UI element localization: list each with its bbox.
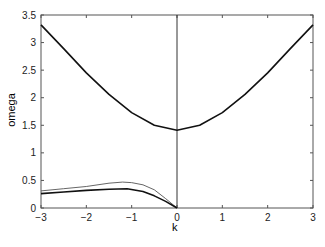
y-tick-label: 1.5 bbox=[22, 120, 36, 131]
y-tick-label: 1 bbox=[30, 147, 36, 158]
y-tick-label: 3.5 bbox=[22, 10, 36, 21]
y-tick-label: 2 bbox=[30, 92, 36, 103]
series-line bbox=[41, 182, 177, 208]
y-axis-label: omega bbox=[5, 93, 17, 127]
y-tick-label: 2.5 bbox=[22, 65, 36, 76]
y-tick-label: 3 bbox=[30, 37, 36, 48]
x-tick-label: −3 bbox=[35, 212, 47, 223]
y-tick-label: 0.5 bbox=[22, 175, 36, 186]
x-axis-label: k bbox=[172, 221, 178, 233]
x-tick-label: 1 bbox=[220, 212, 226, 223]
x-tick-label: 3 bbox=[310, 212, 316, 223]
x-tick-label: −2 bbox=[81, 212, 93, 223]
y-tick-label: 0 bbox=[30, 203, 36, 214]
line-chart: −3−2−1012300.511.522.533.5 bbox=[0, 0, 325, 247]
x-tick-label: 2 bbox=[265, 212, 271, 223]
x-tick-label: −1 bbox=[126, 212, 138, 223]
